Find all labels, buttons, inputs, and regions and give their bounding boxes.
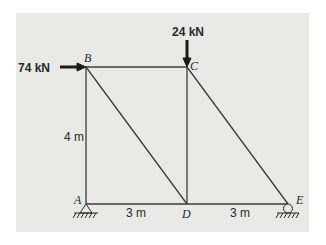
dimension-height: 4 m xyxy=(64,130,84,144)
node-label-D: D xyxy=(181,207,191,221)
diagram-background xyxy=(16,13,309,232)
truss-diagram: 74 kN 24 kN A B C D E 4 m 3 m 3 m xyxy=(0,0,326,245)
node-label-B: B xyxy=(84,51,92,65)
node-label-C: C xyxy=(190,59,199,73)
load-label-C: 24 kN xyxy=(172,25,204,39)
node-label-A: A xyxy=(73,193,82,207)
dimension-span-DE: 3 m xyxy=(230,206,250,220)
node-label-E: E xyxy=(295,193,304,207)
dimension-span-AD: 3 m xyxy=(126,206,146,220)
load-label-B: 74 kN xyxy=(18,61,50,75)
